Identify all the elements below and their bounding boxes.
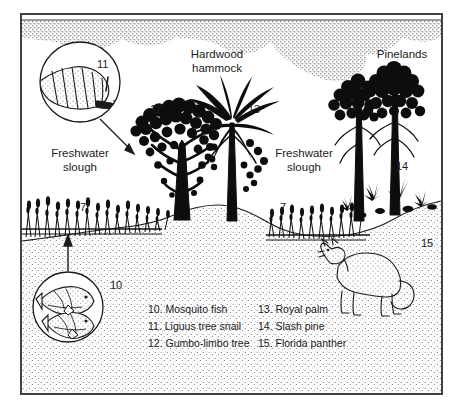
slash-pine-trees-illustration xyxy=(328,61,437,221)
label-hardwood-hammock: Hardwood hammock xyxy=(172,48,262,75)
label-hardwood-hammock-line2: hammock xyxy=(172,62,262,76)
callout-10-mosquito-fish: 10 xyxy=(110,279,122,292)
callout-13-royal-palm: 13 xyxy=(248,103,260,116)
callout-15-florida-panther: 15 xyxy=(421,237,433,250)
legend-item: 12. Gumbo-limbo tree xyxy=(148,335,250,352)
legend-item: 15. Florida panther xyxy=(258,335,346,352)
label-freshwater-slough-left-line1: Freshwater xyxy=(34,147,126,161)
liguus-tree-snail-inset xyxy=(22,42,120,122)
diagram-frame: Hardwood hammock Pinelands Freshwater sl… xyxy=(20,13,443,395)
label-hardwood-hammock-line1: Hardwood xyxy=(172,48,262,62)
legend-item: 10. Mosquito fish xyxy=(148,301,250,318)
callout-12-gumbo-limbo: 12 xyxy=(150,103,162,116)
label-freshwater-slough-right: Freshwater slough xyxy=(258,147,350,174)
label-pinelands-line1: Pinelands xyxy=(357,48,443,62)
everglades-diagram: Hardwood hammock Pinelands Freshwater sl… xyxy=(0,0,465,418)
legend-item: 14. Slash pine xyxy=(258,318,346,335)
legend-left-column: 10. Mosquito fish 11. Liguus tree snail … xyxy=(148,301,250,352)
label-pinelands: Pinelands xyxy=(357,48,443,62)
label-freshwater-slough-right-line2: slough xyxy=(258,161,350,175)
callout-14-slash-pine: 14 xyxy=(396,160,408,173)
callout-11-snail: 11 xyxy=(97,58,108,71)
legend-item: 11. Liguus tree snail xyxy=(148,318,250,335)
legend-right-column: 13. Royal palm 14. Slash pine 15. Florid… xyxy=(258,301,346,352)
label-freshwater-slough-left: Freshwater slough xyxy=(34,147,126,174)
label-freshwater-slough-left-line2: slough xyxy=(34,161,126,175)
callout-7-sawgrass-left: 7 xyxy=(80,201,86,214)
callout-7-sawgrass-right: 7 xyxy=(280,201,286,214)
mosquito-fish-inset xyxy=(33,272,103,342)
label-freshwater-slough-right-line1: Freshwater xyxy=(258,147,350,161)
legend-item: 13. Royal palm xyxy=(258,301,346,318)
